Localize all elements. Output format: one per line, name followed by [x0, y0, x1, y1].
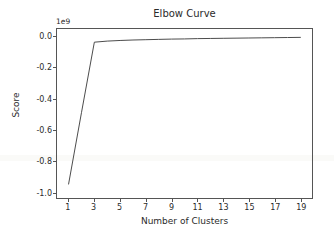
y-axis-tick-label: -0.4 — [24, 94, 52, 103]
x-axis-tick-label: 19 — [296, 203, 306, 212]
y-axis-tick-label: -0.2 — [24, 63, 52, 72]
x-axis-tick-label: 15 — [244, 203, 254, 212]
y-axis-tick-labels: 0.0-0.2-0.4-0.6-0.8-1.0 — [20, 28, 52, 199]
x-axis-tick-mark — [120, 199, 121, 202]
x-axis-tick-label: 9 — [169, 203, 174, 212]
x-axis-tick-mark — [275, 199, 276, 202]
x-axis-tick-mark — [172, 199, 173, 202]
x-axis-tick-marks — [56, 199, 313, 202]
y-axis-tick-label: 0.0 — [24, 31, 52, 40]
x-axis-tick-mark — [197, 199, 198, 202]
x-axis-tick-label: 17 — [270, 203, 280, 212]
x-axis-tick-label: 5 — [117, 203, 122, 212]
x-axis-tick-mark — [146, 199, 147, 202]
x-axis-tick-mark — [301, 199, 302, 202]
elbow-curve-figure: Elbow Curve 1e9 Score 0.0-0.2-0.4-0.6-0.… — [0, 0, 334, 239]
y-axis-tick-label: -0.6 — [24, 125, 52, 134]
x-axis-label: Number of Clusters — [56, 216, 313, 226]
x-axis-tick-mark — [68, 199, 69, 202]
x-axis-tick-label: 3 — [91, 203, 96, 212]
x-axis-tick-mark — [223, 199, 224, 202]
plot-area — [56, 28, 313, 199]
x-axis-tick-mark — [94, 199, 95, 202]
x-axis-tick-labels: 135791113151719 — [56, 203, 313, 215]
y-axis-offset-text: 1e9 — [56, 17, 70, 26]
x-axis-tick-label: 1 — [65, 203, 70, 212]
x-axis-tick-mark — [249, 199, 250, 202]
x-axis-tick-label: 11 — [192, 203, 202, 212]
x-axis-tick-label: 7 — [143, 203, 148, 212]
line-series — [57, 29, 312, 198]
y-axis-tick-label: -0.8 — [24, 157, 52, 166]
score-line — [69, 37, 301, 184]
x-axis-tick-label: 13 — [218, 203, 228, 212]
y-axis-tick-label: -1.0 — [24, 188, 52, 197]
chart-title: Elbow Curve — [56, 8, 313, 19]
